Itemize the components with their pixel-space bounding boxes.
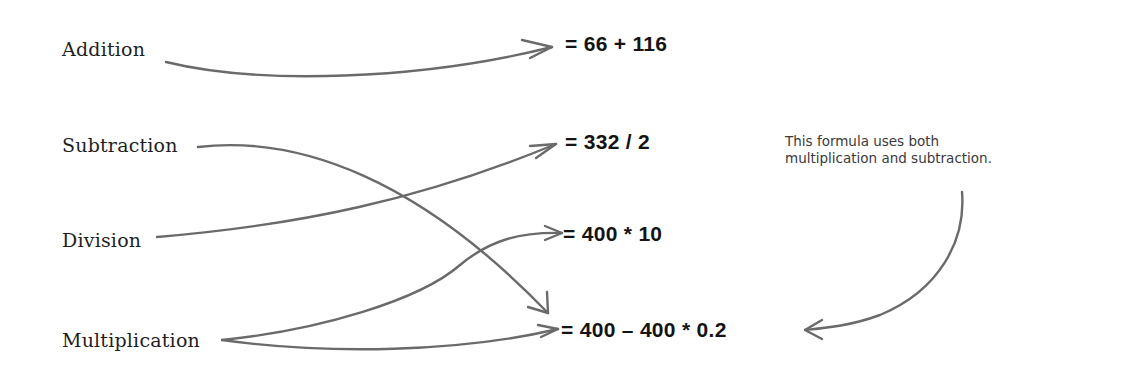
arrow-multiplication-to-formula-3 — [222, 233, 562, 340]
arrow-addition-to-formula-1 — [166, 47, 552, 76]
formula-mixed: = 400 – 400 * 0.2 — [561, 318, 727, 342]
label-addition: Addition — [62, 38, 145, 60]
arrow-annotation-to-formula-4 — [805, 192, 962, 330]
arrowhead-icon — [530, 144, 556, 158]
formula-multiplication: = 400 * 10 — [563, 222, 662, 246]
arrow-subtraction-to-formula-4 — [198, 145, 548, 313]
operations-to-formulas-diagram: Addition Subtraction Division Multiplica… — [0, 0, 1147, 389]
arrowhead-icon — [522, 40, 552, 58]
label-division: Division — [62, 229, 141, 251]
formula-division: = 332 / 2 — [565, 130, 650, 154]
annotation-line-1: This formula uses both — [785, 133, 992, 150]
formula-addition: = 66 + 116 — [565, 32, 667, 56]
arrow-division-to-formula-2 — [157, 144, 556, 237]
label-subtraction: Subtraction — [62, 134, 178, 156]
label-multiplication: Multiplication — [62, 329, 200, 351]
annotation-note: This formula uses both multiplication an… — [785, 133, 992, 167]
annotation-line-2: multiplication and subtraction. — [785, 150, 992, 167]
